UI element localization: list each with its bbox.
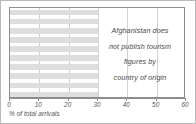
bar [10,10,98,16]
bar-row [10,73,184,79]
bar-row [10,28,184,34]
bar [10,46,98,52]
bar-row [10,46,184,52]
x-tick-label-60: 60 [181,101,188,108]
bar-row [10,55,184,61]
x-tick-label-10: 10 [35,101,42,108]
bar [10,83,98,89]
bar [10,55,98,61]
x-tick-label-30: 30 [93,101,100,108]
bar-row [10,10,184,16]
bar-row [10,64,184,70]
bar [10,64,98,70]
bar-series [10,8,184,97]
bar [10,37,98,43]
plot-area [9,7,185,98]
bar-row [10,83,184,89]
x-axis-title: % of total arrivals [9,110,60,117]
bar-row [10,37,184,43]
bar [10,19,98,25]
bar [10,73,98,79]
x-tick-label-40: 40 [123,101,130,108]
x-tick-label-20: 20 [64,101,71,108]
bar [10,92,98,98]
bar-row [10,92,184,98]
bar [10,28,98,34]
x-tick-label-0: 0 [7,101,11,108]
bar-row [10,19,184,25]
x-tick-label-50: 50 [152,101,159,108]
chart-figure: Afghanistan doesnot publish tourismfigur… [0,0,196,124]
